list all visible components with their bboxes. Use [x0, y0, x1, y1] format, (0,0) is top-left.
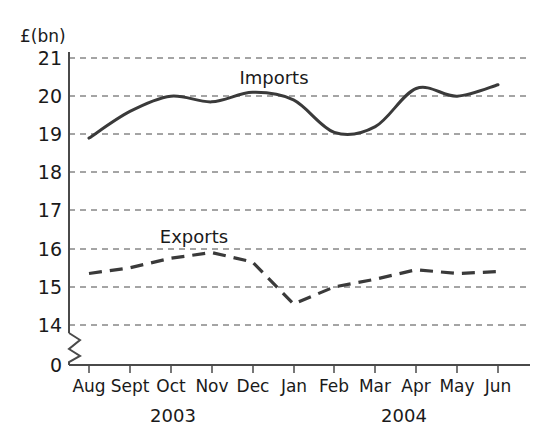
line-chart: £(bn) 21 20 19 18 17 16 15 14 0 — [0, 0, 550, 441]
x-axis-tick-labels: Aug Sept Oct Nov Dec Jan Feb Mar Apr May… — [72, 376, 511, 396]
series-line-exports — [89, 253, 498, 304]
y-tick-label-17: 17 — [38, 199, 62, 221]
year-label-2004: 2004 — [381, 405, 427, 426]
y-tick-label-15: 15 — [38, 276, 62, 298]
y-axis-title: £(bn) — [20, 26, 66, 46]
x-tick-label-jan: Jan — [280, 376, 307, 396]
series-line-imports — [89, 85, 498, 138]
x-tick-label-dec: Dec — [237, 376, 270, 396]
x-tick-label-oct: Oct — [156, 376, 186, 396]
gridlines — [69, 58, 530, 325]
exports-series-label: Exports — [160, 226, 228, 247]
x-axis-year-labels: 2003 2004 — [150, 405, 427, 426]
axis-break-zigzag — [69, 333, 80, 365]
y-tick-label-14: 14 — [38, 314, 62, 336]
y-tick-label-18: 18 — [38, 161, 62, 183]
imports-series-label: Imports — [239, 67, 308, 88]
x-axis — [69, 365, 530, 373]
x-tick-label-mar: Mar — [359, 376, 391, 396]
year-label-2003: 2003 — [150, 405, 196, 426]
y-tick-label-20: 20 — [38, 85, 62, 107]
x-tick-label-aug: Aug — [72, 376, 105, 396]
x-tick-label-apr: Apr — [401, 376, 430, 396]
y-tick-label-16: 16 — [38, 238, 62, 260]
x-tick-label-may: May — [439, 376, 474, 396]
y-axis — [69, 52, 80, 365]
x-tick-label-feb: Feb — [319, 376, 349, 396]
y-tick-label-zero: 0 — [50, 354, 62, 376]
y-tick-label-21: 21 — [38, 47, 62, 69]
x-tick-label-nov: Nov — [195, 376, 228, 396]
y-axis-tick-labels: 21 20 19 18 17 16 15 14 0 — [38, 47, 62, 376]
x-tick-label-sept: Sept — [111, 376, 150, 396]
chart-container: £(bn) 21 20 19 18 17 16 15 14 0 — [0, 0, 550, 441]
y-tick-label-19: 19 — [38, 123, 62, 145]
x-tick-label-jun: Jun — [484, 376, 512, 396]
